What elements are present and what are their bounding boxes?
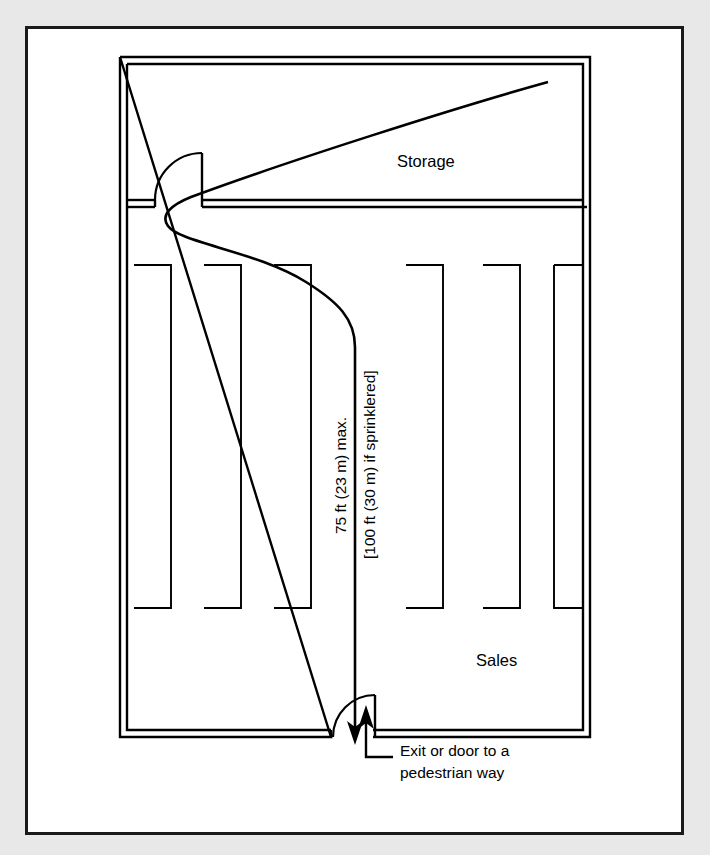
- dimension-primary-label: 75 ft (23 m) max.: [332, 417, 349, 534]
- figure-page: 75 ft (23 m) max. [100 ft (30 m) if spri…: [0, 0, 710, 855]
- partition-wall-storage-sales: [127, 200, 587, 207]
- room-label-storage: Storage: [397, 152, 455, 170]
- room-label-sales: Sales: [476, 651, 517, 669]
- travel-path-arrow: [165, 82, 548, 745]
- exit-callout: Exit or door to a pedestrian way: [358, 705, 510, 781]
- exit-callout-line2: pedestrian way: [400, 764, 505, 781]
- floor-plan-drawing: 75 ft (23 m) max. [100 ft (30 m) if spri…: [28, 29, 681, 832]
- dimension-secondary-label: [100 ft (30 m) if sprinklered]: [361, 370, 378, 559]
- exit-callout-line1: Exit or door to a: [400, 742, 510, 759]
- door-swing-icon: [155, 153, 202, 207]
- figure-card: 75 ft (23 m) max. [100 ft (30 m) if spri…: [25, 26, 684, 835]
